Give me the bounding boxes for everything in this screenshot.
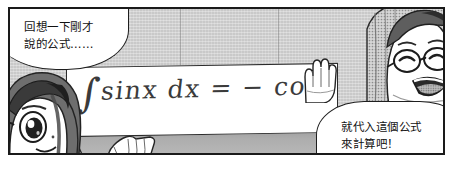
manga-panel-screenshot: ∫sinx dx = − cosx <box>0 0 460 182</box>
whiteboard-formula: ∫sinx dx = − cosx <box>77 71 337 107</box>
character-left-girl <box>8 65 114 155</box>
speech-bubble-plug-in-text: 就代入這個公式 來計算吧！ <box>341 119 422 153</box>
speech-bubble-plug-in: 就代入這個公式 來計算吧！ <box>316 101 445 155</box>
character-right-girl-glasses <box>365 7 445 115</box>
speech-bubble-recall-text: 回想一下剛才 說的公式…… <box>24 19 94 53</box>
hand-pointing-left <box>106 135 158 155</box>
comic-panel-frame: ∫sinx dx = − cosx <box>8 7 445 155</box>
hand-raised-right <box>300 57 340 103</box>
